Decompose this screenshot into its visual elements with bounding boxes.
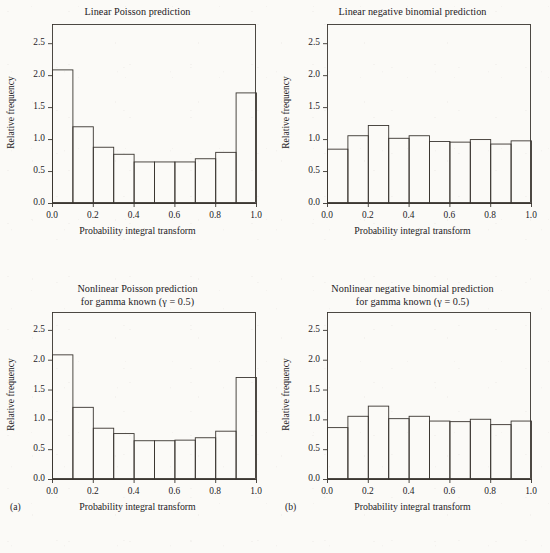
x-tick-label: 0.0 xyxy=(32,486,72,496)
histogram-bar xyxy=(389,138,409,203)
histogram-bar xyxy=(328,428,348,480)
x-tick-label: 0.6 xyxy=(429,486,469,496)
y-tick-label: 2.5 xyxy=(275,37,320,47)
histogram-bar xyxy=(236,93,256,204)
histogram-bar xyxy=(134,441,154,480)
histogram-bar xyxy=(450,142,470,203)
histogram-bar xyxy=(511,421,531,479)
histogram-bar xyxy=(114,154,134,203)
histogram-bar xyxy=(155,162,175,204)
histogram-bar xyxy=(73,407,93,479)
histogram-bar xyxy=(348,136,368,204)
plot-frame xyxy=(328,313,531,479)
x-tick-label: 0.2 xyxy=(73,486,113,496)
x-tick-label: 1.0 xyxy=(236,210,276,220)
histogram-bar xyxy=(409,136,429,204)
panel-nonlinear-poisson: Nonlinear Poisson prediction for gamma k… xyxy=(0,276,275,553)
plot-area-linear-negative-binomial: 0.00.51.01.52.02.50.00.20.40.60.81.0Rela… xyxy=(275,0,550,276)
x-axis-label: Probability integral transform xyxy=(275,501,550,512)
histogram-bar xyxy=(236,378,256,480)
x-tick-label: 0.4 xyxy=(114,486,154,496)
histogram-bar xyxy=(195,438,215,480)
histogram-bar xyxy=(195,159,215,204)
histogram-bar xyxy=(389,419,409,480)
x-tick-label: 0.0 xyxy=(32,210,72,220)
x-tick-label: 0.0 xyxy=(307,210,347,220)
histogram-bar xyxy=(53,355,73,480)
histogram-bar xyxy=(328,149,348,203)
panel-linear-negative-binomial: Linear negative binomial prediction0.00.… xyxy=(275,0,550,276)
y-tick-label: 0.0 xyxy=(0,473,45,483)
plot-frame xyxy=(53,313,256,479)
y-axis-label: Relative frequency xyxy=(280,344,291,444)
plot-frame xyxy=(328,25,531,203)
y-tick-label: 0.0 xyxy=(275,473,320,483)
x-axis-label: Probability integral transform xyxy=(275,225,550,236)
y-tick-label: 0.5 xyxy=(0,165,45,175)
plot-area-nonlinear-negative-binomial: 0.00.51.01.52.02.50.00.20.40.60.81.0Rela… xyxy=(275,276,550,552)
x-tick-label: 0.2 xyxy=(348,210,388,220)
y-tick-label: 2.5 xyxy=(0,37,45,47)
x-axis-label: Probability integral transform xyxy=(0,501,275,512)
histogram-bar xyxy=(368,126,388,204)
y-tick-label: 0.5 xyxy=(0,443,45,453)
x-tick-label: 0.6 xyxy=(154,210,194,220)
histogram-bar xyxy=(511,141,531,204)
panel-linear-poisson: Linear Poisson prediction0.00.51.01.52.0… xyxy=(0,0,275,276)
histogram-bar xyxy=(368,406,388,479)
histogram-bar xyxy=(409,416,429,479)
panel-letter: (b) xyxy=(285,501,296,512)
y-tick-label: 2.5 xyxy=(0,324,45,334)
x-tick-label: 0.0 xyxy=(307,486,347,496)
panel-letter: (a) xyxy=(10,501,21,512)
x-tick-label: 0.4 xyxy=(389,486,429,496)
histogram-bar xyxy=(430,141,450,203)
histogram-bar xyxy=(348,416,368,479)
histogram-bar xyxy=(450,422,470,480)
x-tick-label: 1.0 xyxy=(236,486,276,496)
figure-panel-grid: Linear Poisson prediction0.00.51.01.52.0… xyxy=(0,0,550,553)
y-tick-label: 0.0 xyxy=(275,197,320,207)
histogram-bar xyxy=(114,434,134,480)
y-axis-label: Relative frequency xyxy=(280,62,291,162)
x-axis-label: Probability integral transform xyxy=(0,225,275,236)
x-tick-label: 0.8 xyxy=(470,210,510,220)
histogram-bar xyxy=(53,70,73,204)
y-tick-label: 0.0 xyxy=(0,197,45,207)
histogram-bar xyxy=(216,431,236,479)
histogram-bar xyxy=(216,152,236,203)
plot-area-linear-poisson: 0.00.51.01.52.02.50.00.20.40.60.81.0Rela… xyxy=(0,0,275,276)
histogram-bar xyxy=(155,441,175,480)
histogram-bar xyxy=(430,421,450,479)
histogram-bar xyxy=(470,140,490,204)
x-tick-label: 0.8 xyxy=(470,486,510,496)
histogram-bar xyxy=(93,147,113,203)
plot-area-nonlinear-poisson: 0.00.51.01.52.02.50.00.20.40.60.81.0Rela… xyxy=(0,276,275,552)
x-tick-label: 0.6 xyxy=(429,210,469,220)
y-tick-label: 0.5 xyxy=(275,443,320,453)
histogram-bar xyxy=(93,428,113,479)
histogram-bar xyxy=(175,440,195,479)
y-tick-label: 2.5 xyxy=(275,324,320,334)
x-tick-label: 1.0 xyxy=(511,210,550,220)
histogram-bar xyxy=(73,127,93,204)
histogram-bar xyxy=(470,419,490,479)
plot-frame xyxy=(53,25,256,203)
histogram-bar xyxy=(491,425,511,480)
histogram-bar xyxy=(134,162,154,204)
x-tick-label: 1.0 xyxy=(511,486,550,496)
y-axis-label: Relative frequency xyxy=(5,62,16,162)
y-axis-label: Relative frequency xyxy=(5,344,16,444)
x-tick-label: 0.2 xyxy=(73,210,113,220)
histogram-bar xyxy=(491,144,511,203)
x-tick-label: 0.6 xyxy=(154,486,194,496)
histogram-bar xyxy=(175,162,195,204)
x-tick-label: 0.4 xyxy=(114,210,154,220)
x-tick-label: 0.4 xyxy=(389,210,429,220)
y-tick-label: 0.5 xyxy=(275,165,320,175)
x-tick-label: 0.8 xyxy=(195,210,235,220)
panel-nonlinear-negative-binomial: Nonlinear negative binomial prediction f… xyxy=(275,276,550,553)
x-tick-label: 0.8 xyxy=(195,486,235,496)
x-tick-label: 0.2 xyxy=(348,486,388,496)
